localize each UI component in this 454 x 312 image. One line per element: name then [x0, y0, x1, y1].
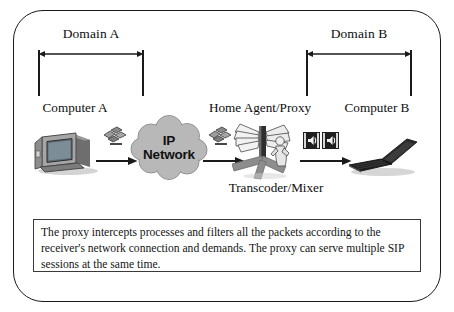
laptop-computer-icon: [345, 135, 421, 179]
domain-b-arrow: [306, 45, 412, 55]
note-box: The proxy intercepts processes and filte…: [33, 219, 421, 272]
domain-b-bracket: Domain B: [306, 26, 412, 96]
proxy-filter-icon: [232, 118, 302, 180]
domain-a-arrow: [38, 45, 144, 55]
domain-b-tick-right: [410, 50, 412, 96]
network-cloud-line1: IP: [163, 134, 175, 148]
packet-cluster-icon-2: [207, 126, 233, 150]
domain-a-label: Domain A: [38, 26, 144, 42]
computer-a-label: Computer A: [25, 100, 125, 116]
figure-root: Domain A Domain B Computer A Home Agent/…: [0, 0, 454, 312]
transcoder-mixer-label: Transcoder/Mixer: [214, 180, 338, 196]
desktop-computer-icon: [28, 127, 100, 175]
note-text: The proxy intercepts processes and filte…: [34, 220, 420, 273]
network-cloud-line2: Network: [143, 148, 195, 162]
domain-b-tick-left: [306, 50, 308, 96]
domain-b-label: Domain B: [306, 26, 412, 42]
network-cloud-icon: IP Network: [129, 115, 209, 181]
speaker-media-icon-2: [322, 132, 339, 149]
speaker-media-icon-1: [303, 132, 320, 149]
packet-cluster-icon: [102, 126, 128, 150]
domain-a-tick-right: [142, 50, 144, 96]
domain-a-bracket: Domain A: [38, 26, 144, 96]
home-agent-proxy-label: Home Agent/Proxy: [198, 100, 322, 116]
computer-b-label: Computer B: [327, 100, 427, 116]
domain-a-tick-left: [38, 50, 40, 96]
network-cloud-text: IP Network: [129, 115, 209, 181]
